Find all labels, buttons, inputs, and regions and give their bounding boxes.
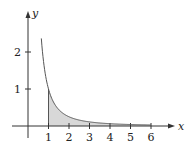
svg-text:6: 6 — [148, 131, 155, 143]
svg-text:5: 5 — [127, 131, 134, 143]
chart-plot: x y 1 2 3 4 5 6 1 2 — [0, 0, 189, 143]
svg-text:4: 4 — [107, 131, 114, 143]
x-axis-arrow-icon — [168, 124, 175, 129]
y-axis-arrow-icon — [26, 11, 31, 18]
x-tick-labels: 1 2 3 4 5 6 — [45, 131, 155, 143]
svg-text:1: 1 — [14, 83, 21, 96]
svg-text:3: 3 — [86, 131, 93, 143]
shaded-area — [49, 89, 152, 126]
svg-text:2: 2 — [14, 46, 21, 59]
y-axis-label: y — [31, 7, 39, 20]
y-tick-labels: 1 2 — [14, 46, 21, 96]
x-axis-label: x — [178, 120, 185, 133]
svg-text:2: 2 — [66, 131, 73, 143]
svg-text:1: 1 — [45, 131, 52, 143]
